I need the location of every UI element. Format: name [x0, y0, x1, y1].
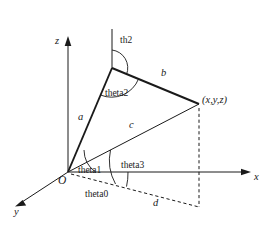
- theta2-label: theta2: [105, 89, 128, 99]
- segment-a-label: a: [78, 112, 83, 123]
- segment-a-line: [68, 68, 112, 172]
- theta1-label: theta1: [78, 166, 101, 176]
- th2-label: th2: [120, 36, 132, 46]
- theta0-arc: [127, 172, 129, 187]
- y-axis-label: y: [14, 207, 19, 218]
- segment-b-line: [112, 68, 199, 104]
- x-axis-arrowhead: [241, 169, 251, 176]
- geometry-diagram: z x y O (x,y,z) a b c d theta0 theta1 th…: [0, 0, 269, 231]
- z-axis-arrowhead: [65, 36, 72, 46]
- theta0-label: theta0: [85, 190, 108, 200]
- theta3-label: theta3: [121, 161, 144, 171]
- diagram-canvas: [0, 0, 269, 231]
- origin-label: O: [58, 175, 66, 187]
- x-axis-label: x: [254, 172, 259, 183]
- theta3-arc: [109, 150, 115, 184]
- segment-c-label: c: [129, 120, 134, 131]
- end-effector-label: (x,y,z): [202, 95, 227, 106]
- segment-d-label: d: [153, 198, 158, 209]
- segment-b-label: b: [161, 68, 166, 79]
- z-axis-label: z: [55, 36, 59, 47]
